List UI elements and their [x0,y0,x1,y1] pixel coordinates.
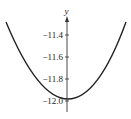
y-tick-label: −11.6 [43,52,64,62]
parabola-curve [6,22,126,99]
y-tick-label: −11.8 [43,74,64,84]
y-axis-arrow-icon [65,16,69,22]
y-axis-label: y [64,6,69,16]
y-tick-label: −11.4 [43,30,64,40]
parabola-chart: y −11.4 −11.6 −11.8 −12.0 [0,0,131,119]
